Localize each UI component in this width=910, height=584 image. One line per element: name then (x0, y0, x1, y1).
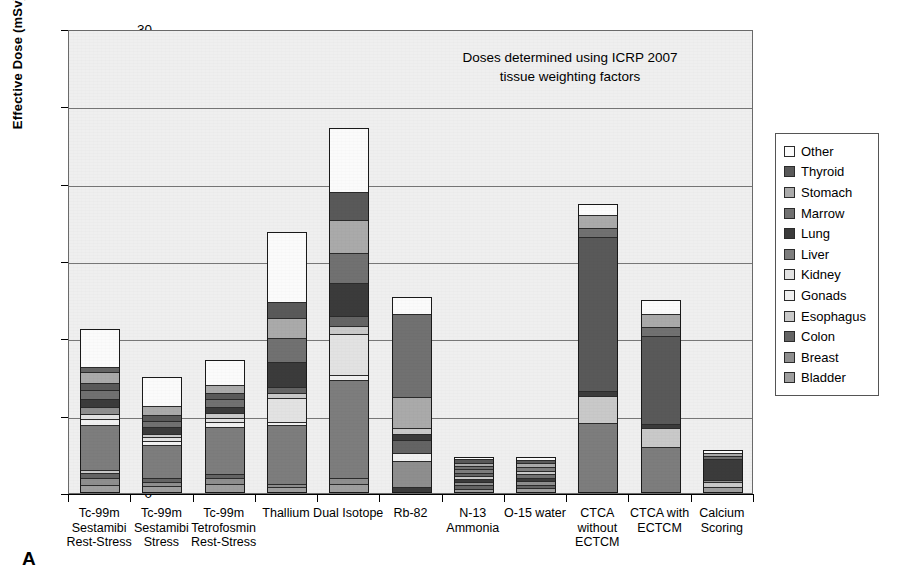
legend-label: Bladder (801, 370, 846, 385)
x-tick-mark-7 (504, 494, 505, 502)
bar-segment-bladder (517, 489, 555, 492)
legend-label: Other (801, 144, 834, 159)
bar-segment-liver (642, 448, 680, 492)
legend-label: Liver (801, 247, 829, 262)
bar-tc99m-sestamibi-stress[interactable] (142, 377, 182, 493)
legend-swatch-colon-icon (784, 331, 795, 342)
x-axis-label-calcium-scoring: Calcium Scoring (685, 506, 759, 535)
bar-segment-bladder (455, 490, 493, 492)
bar-segment-marrow (268, 339, 306, 363)
bar-segment-liver (268, 426, 306, 485)
bar-segment-colon (330, 317, 368, 328)
bar-segment-lung (330, 284, 368, 317)
bar-segment-breast (393, 462, 431, 489)
bar-segment-liver (81, 426, 119, 472)
chart-annotation: Doses determined using ICRP 2007 tissue … (400, 48, 740, 86)
legend-item-bladder[interactable]: Bladder (784, 368, 872, 389)
bar-ctca-with-ectcm[interactable] (641, 300, 681, 493)
x-tick-mark-1 (130, 494, 131, 502)
bar-segment-marrow (81, 391, 119, 400)
x-tick-mark-edge-0 (68, 494, 69, 502)
bar-segment-liver (579, 424, 617, 492)
legend-label: Breast (801, 350, 839, 365)
legend-item-colon[interactable]: Colon (784, 326, 872, 347)
x-tick-mark-8 (566, 494, 567, 502)
legend-swatch-breast-icon (784, 352, 795, 363)
legend-item-thyroid[interactable]: Thyroid (784, 162, 872, 183)
bar-rb-82[interactable] (392, 297, 432, 493)
bar-segment-kidney (268, 399, 306, 423)
legend-label: Kidney (801, 267, 841, 282)
legend-swatch-lung-icon (784, 228, 795, 239)
legend-item-esophagus[interactable]: Esophagus (784, 306, 872, 327)
bar-segment-bladder (206, 485, 244, 492)
y-tick-mark-0 (61, 494, 68, 495)
annotation-line-2: tissue weighting factors (400, 67, 740, 86)
bar-tc99m-tetrofosmin-rest-stress[interactable] (205, 360, 245, 493)
bar-segment-other (579, 205, 617, 217)
bar-ctca-without-ectcm[interactable] (578, 204, 618, 493)
legend-item-breast[interactable]: Breast (784, 347, 872, 368)
legend-label: Thyroid (801, 164, 844, 179)
x-tick-mark-9 (628, 494, 629, 502)
bar-segment-liver (330, 381, 368, 479)
bar-segment-marrow (642, 328, 680, 337)
bar-segment-thyroid (206, 394, 244, 401)
legend-swatch-stomach-icon (784, 187, 795, 198)
y-axis-title: Effective Dose (mSv) (10, 143, 25, 173)
bar-calcium-scoring[interactable] (703, 450, 743, 493)
legend-item-lung[interactable]: Lung (784, 223, 872, 244)
y-axis-title-text: Effective Dose (mSv) (10, 0, 25, 173)
legend-item-stomach[interactable]: Stomach (784, 182, 872, 203)
bar-segment-bladder (81, 486, 119, 492)
legend-item-other[interactable]: Other (784, 141, 872, 162)
panel-letter: A (22, 548, 36, 570)
bar-thallium[interactable] (267, 232, 307, 493)
bar-segment-stomach (268, 319, 306, 339)
bar-segment-stomach (579, 216, 617, 228)
legend-swatch-gonads-icon (784, 290, 795, 301)
legend-item-gonads[interactable]: Gonads (784, 285, 872, 306)
y-tick-mark-15 (61, 262, 68, 263)
bar-segment-stomach (81, 373, 119, 384)
bar-segment-esophagus (642, 429, 680, 449)
legend-item-liver[interactable]: Liver (784, 244, 872, 265)
bar-segment-thyroid (579, 238, 617, 392)
bar-segment-bladder (704, 488, 742, 492)
legend-item-marrow[interactable]: Marrow (784, 203, 872, 224)
y-tick-mark-10 (61, 339, 68, 340)
x-tick-mark-3 (255, 494, 256, 502)
x-tick-mark-edge-1 (753, 494, 754, 502)
legend-swatch-marrow-icon (784, 208, 795, 219)
gridline-25 (69, 108, 752, 109)
x-tick-mark-2 (193, 494, 194, 502)
legend-swatch-esophagus-icon (784, 311, 795, 322)
legend-swatch-liver-icon (784, 249, 795, 260)
y-tick-mark-20 (61, 185, 68, 186)
bar-segment-breast (81, 479, 119, 486)
bar-segment-other (206, 361, 244, 386)
bar-segment-other (268, 233, 306, 304)
legend-label: Marrow (801, 206, 844, 221)
bar-segment-stomach (330, 221, 368, 254)
legend-label: Esophagus (801, 309, 866, 324)
bar-o-15-water[interactable] (516, 457, 556, 493)
bar-n-13-ammonia[interactable] (454, 457, 494, 493)
bar-tc99m-sestamibi-rest-stress[interactable] (80, 329, 120, 493)
bar-dual-isotope[interactable] (329, 128, 369, 493)
x-tick-mark-5 (379, 494, 380, 502)
x-axis-line (68, 494, 753, 495)
bar-segment-other (81, 330, 119, 368)
x-tick-mark-6 (442, 494, 443, 502)
bar-segment-marrow (206, 400, 244, 407)
bar-segment-stomach (206, 386, 244, 394)
bar-segment-kidney (330, 335, 368, 376)
chart-figure: Effective Dose (mSv) 051015202530 Tc-99m… (0, 0, 910, 584)
bar-segment-esophagus (330, 327, 368, 335)
bar-segment-liver (206, 428, 244, 475)
legend-item-kidney[interactable]: Kidney (784, 265, 872, 286)
bar-segment-thyroid (81, 384, 119, 391)
bar-segment-marrow (579, 229, 617, 238)
legend-label: Stomach (801, 185, 852, 200)
bar-segment-lung (393, 488, 431, 492)
